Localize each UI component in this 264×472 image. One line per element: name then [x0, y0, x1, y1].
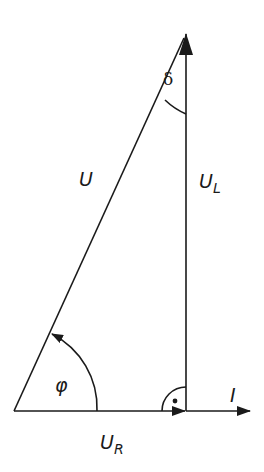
phase-angle-arc — [52, 334, 97, 411]
resistive-voltage-label: UR — [100, 431, 124, 457]
current-label: I — [230, 384, 236, 406]
inductive-voltage-label: UL — [199, 170, 221, 196]
total-voltage-vector — [14, 38, 184, 411]
phi-label: φ — [55, 374, 68, 396]
resistive-voltage-label-main: U — [100, 431, 114, 453]
phasor-diagram: δ U UL φ I UR — [0, 0, 264, 472]
right-angle-dot — [173, 399, 178, 404]
total-voltage-label: U — [79, 168, 93, 190]
delta-label: δ — [163, 69, 173, 89]
delta-angle-arc — [165, 100, 186, 114]
resistive-voltage-label-sub: R — [114, 441, 124, 457]
inductive-voltage-label-sub: L — [213, 180, 221, 196]
inductive-voltage-label-main: U — [199, 170, 213, 192]
